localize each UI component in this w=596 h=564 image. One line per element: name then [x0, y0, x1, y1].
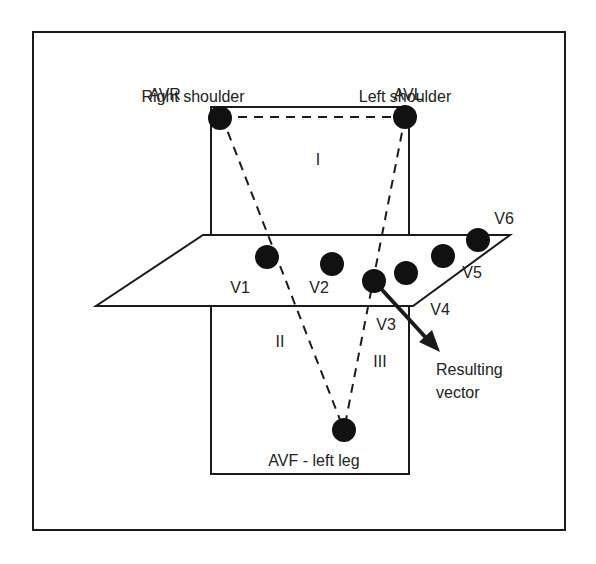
label-v4: V4 [430, 301, 450, 318]
electrode-avl [393, 105, 417, 129]
electrode-v1 [255, 245, 279, 269]
label-vector: vector [436, 384, 480, 401]
label-v1: V1 [230, 279, 250, 296]
electrode-v5 [431, 244, 455, 268]
label-resulting: Resulting [436, 361, 503, 378]
label-lead-ii: II [276, 333, 285, 350]
label-v5: V5 [462, 264, 482, 281]
electrode-avf [332, 418, 356, 442]
label-avl: AVL [393, 86, 422, 103]
label-avr-visible: AVR [149, 86, 181, 103]
label-v2: V2 [309, 279, 329, 296]
label-avf: AVF - left leg [268, 452, 359, 469]
electrode-avr [208, 106, 232, 130]
label-lead-i: I [316, 151, 320, 168]
electrode-v2 [320, 252, 344, 276]
electrode-v4 [394, 261, 418, 285]
electrode-v6 [466, 228, 490, 252]
label-lead-iii: III [373, 353, 386, 370]
electrode-v3 [362, 269, 386, 293]
label-v6: V6 [494, 210, 514, 227]
label-v3: V3 [376, 316, 396, 333]
einthoven-diagram: Right shoulder AVR AVR Left shoulder AVL… [0, 0, 596, 564]
